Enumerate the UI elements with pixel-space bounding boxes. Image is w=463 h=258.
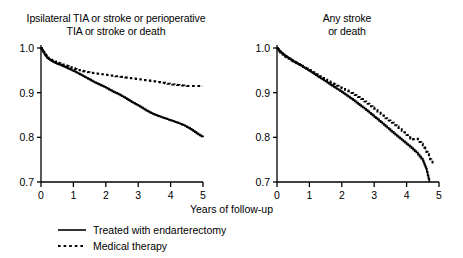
legend-item-medical: Medical therapy bbox=[58, 238, 226, 254]
svg-text:0.9: 0.9 bbox=[255, 87, 270, 99]
svg-text:1: 1 bbox=[70, 189, 76, 201]
svg-text:0: 0 bbox=[38, 189, 44, 201]
svg-text:3: 3 bbox=[135, 189, 141, 201]
svg-text:0.9: 0.9 bbox=[19, 87, 34, 99]
svg-text:3: 3 bbox=[371, 189, 377, 201]
svg-text:0.8: 0.8 bbox=[255, 131, 270, 143]
svg-text:4: 4 bbox=[168, 189, 174, 201]
svg-text:4: 4 bbox=[404, 189, 410, 201]
survival-curve-figure: Ipsilateral TIA or stroke or perioperati… bbox=[0, 0, 463, 258]
legend: Treated with endarterectomy Medical ther… bbox=[58, 222, 226, 254]
svg-text:0.7: 0.7 bbox=[19, 176, 34, 188]
svg-text:5: 5 bbox=[436, 189, 442, 201]
legend-solid-line-icon bbox=[58, 225, 86, 235]
panel-left: Ipsilateral TIA or stroke or perioperati… bbox=[0, 0, 232, 215]
svg-text:0.8: 0.8 bbox=[19, 131, 34, 143]
x-axis-label: Years of follow-up bbox=[0, 203, 463, 215]
panel-right: Any stroke or death 0.70.80.91.0012345 bbox=[231, 0, 463, 215]
legend-item-endarterectomy: Treated with endarterectomy bbox=[58, 222, 226, 238]
svg-text:2: 2 bbox=[339, 189, 345, 201]
legend-label-medical: Medical therapy bbox=[93, 238, 167, 254]
panel-left-plot: 0.70.80.91.0012345 bbox=[0, 0, 232, 215]
svg-text:5: 5 bbox=[200, 189, 206, 201]
svg-text:1.0: 1.0 bbox=[19, 42, 34, 54]
svg-text:2: 2 bbox=[103, 189, 109, 201]
legend-label-endarterectomy: Treated with endarterectomy bbox=[93, 222, 226, 238]
svg-text:0.7: 0.7 bbox=[255, 176, 270, 188]
legend-dashed-line-icon bbox=[58, 241, 86, 251]
svg-text:1.0: 1.0 bbox=[255, 42, 270, 54]
svg-text:1: 1 bbox=[306, 189, 312, 201]
svg-text:0: 0 bbox=[274, 189, 280, 201]
panel-right-plot: 0.70.80.91.0012345 bbox=[231, 0, 463, 215]
